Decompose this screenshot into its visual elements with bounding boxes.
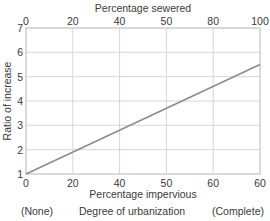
y-tick-label: 1 <box>17 168 23 180</box>
bottom-axis-title: Percentage impervious <box>89 188 196 200</box>
top-axis-ticks: 020405080100 <box>23 15 269 27</box>
y-axis-title: Ratio of increase <box>1 61 13 140</box>
urbanization-chart: 020405080100 02040506060 1234567 Percent… <box>0 0 270 221</box>
y-tick-label: 4 <box>17 95 23 107</box>
bottom-tick-label: 20 <box>67 177 79 189</box>
top-axis-title: Percentage sewered <box>95 2 191 14</box>
y-tick-label: 2 <box>17 144 23 156</box>
footer-left-label: (None) <box>21 205 53 217</box>
series-line <box>26 65 260 175</box>
top-tick-label: 0 <box>23 15 29 27</box>
bottom-tick-label: 0 <box>23 177 29 189</box>
top-tick-label: 80 <box>207 15 219 27</box>
top-tick-label: 20 <box>67 15 79 27</box>
y-axis-ticks: 1234567 <box>17 22 23 180</box>
y-tick-label: 5 <box>17 71 23 83</box>
top-tick-label: 50 <box>161 15 173 27</box>
y-tick-label: 7 <box>17 22 23 34</box>
top-tick-label: 100 <box>251 15 269 27</box>
grid-lines <box>26 28 260 174</box>
footer-center-label: Degree of urbanization <box>79 205 185 217</box>
bottom-tick-label: 60 <box>254 177 266 189</box>
footer-right-label: (Complete) <box>212 205 264 217</box>
y-tick-label: 3 <box>17 119 23 131</box>
bottom-tick-label: 60 <box>207 177 219 189</box>
y-tick-label: 6 <box>17 46 23 58</box>
top-tick-label: 40 <box>114 15 126 27</box>
